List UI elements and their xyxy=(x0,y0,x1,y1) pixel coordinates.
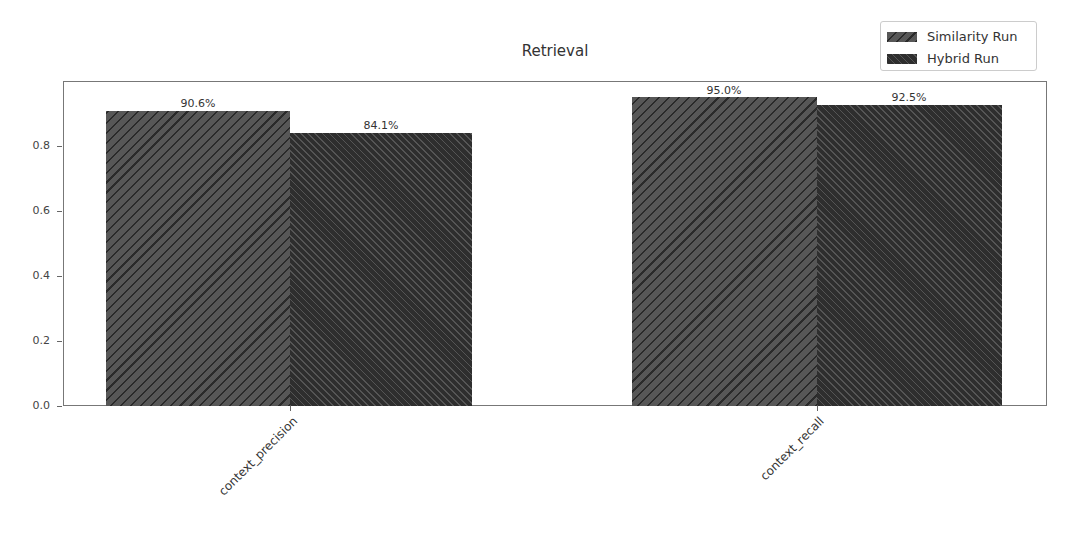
value-label: 95.0% xyxy=(684,84,764,97)
value-label: 92.5% xyxy=(869,91,949,104)
legend-item-hybrid: Hybrid Run xyxy=(887,51,999,66)
bar-similarity-context-recall xyxy=(632,97,817,406)
value-label: 90.6% xyxy=(158,97,238,110)
bar-hybrid-context-precision xyxy=(290,133,472,406)
x-label-context-recall: context_recall xyxy=(758,414,827,483)
legend-item-similarity: Similarity Run xyxy=(887,29,1018,44)
legend: Similarity Run Hybrid Run xyxy=(880,21,1037,71)
hybrid-swatch-icon xyxy=(887,54,917,64)
value-label: 84.1% xyxy=(341,119,421,132)
bar-hybrid-context-recall xyxy=(817,105,1002,406)
legend-label: Hybrid Run xyxy=(927,51,999,66)
x-tick xyxy=(817,406,818,411)
x-label-context-precision: context_precision xyxy=(215,414,299,498)
legend-label: Similarity Run xyxy=(927,29,1018,44)
x-tick xyxy=(290,406,291,411)
bar-similarity-context-precision xyxy=(106,111,290,406)
similarity-swatch-icon xyxy=(887,32,917,42)
